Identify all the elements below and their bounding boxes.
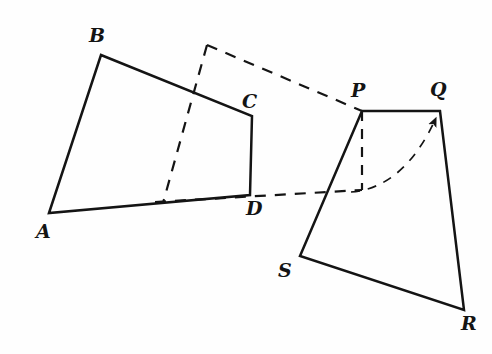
curved-rotation-arrow xyxy=(351,118,436,192)
vertex-label-c: C xyxy=(242,92,257,111)
vertex-label-p: P xyxy=(351,81,365,100)
geometry-canvas xyxy=(0,0,492,354)
vertex-label-q: Q xyxy=(430,80,447,99)
vertex-label-d: D xyxy=(246,199,262,218)
vertex-label-a: A xyxy=(36,222,51,241)
quadrilateral-pqrs xyxy=(300,111,464,310)
quadrilateral-abcd xyxy=(49,55,252,213)
dashed-corner-to-p-line xyxy=(207,45,362,111)
vertex-label-r: R xyxy=(461,314,477,333)
vertex-label-s: S xyxy=(278,261,292,280)
dashed-construction-group xyxy=(155,45,436,203)
geometry-figure: A B C D P Q R S xyxy=(0,0,492,354)
vertex-label-b: B xyxy=(89,26,105,45)
dashed-corner-down-line xyxy=(163,45,207,203)
